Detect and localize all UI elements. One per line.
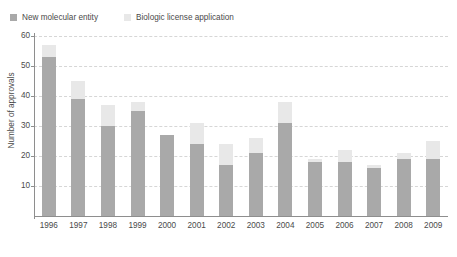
x-axis-ticks: 1996199719981999200020012002200320042005… xyxy=(34,221,448,235)
x-axis-tick-label: 2001 xyxy=(181,221,213,231)
bar-stack xyxy=(308,159,322,216)
bar-segment xyxy=(190,144,204,216)
bar-segment xyxy=(308,162,322,216)
bar-segment xyxy=(71,81,85,99)
bar-segment xyxy=(190,123,204,144)
bar-stack xyxy=(160,135,174,216)
bar-segment xyxy=(160,135,174,216)
x-axis-tick-label: 2003 xyxy=(240,221,272,231)
bar-stack xyxy=(249,138,263,216)
x-axis-tick-label: 1998 xyxy=(92,221,124,231)
bar-stack xyxy=(42,45,56,216)
bar-segment xyxy=(426,159,440,216)
bar-segment xyxy=(131,102,145,111)
x-axis-tick-label: 2002 xyxy=(210,221,242,231)
bar-stack xyxy=(278,102,292,216)
bar-stack xyxy=(219,144,233,216)
bar-segment xyxy=(278,123,292,216)
bar-stack xyxy=(190,123,204,216)
x-axis-tick-label: 2006 xyxy=(329,221,361,231)
bar-segment xyxy=(42,45,56,57)
chart-figure: New molecular entity Biologic license ap… xyxy=(0,0,457,257)
y-axis-title: Number of approvals xyxy=(7,46,16,176)
bar-segment xyxy=(219,144,233,165)
x-axis-tick-label: 2004 xyxy=(269,221,301,231)
x-axis-tick-label: 2000 xyxy=(151,221,183,231)
bar-segment xyxy=(278,102,292,123)
bar-stack xyxy=(397,153,411,216)
bar-segment xyxy=(219,165,233,216)
bar-stack xyxy=(71,81,85,216)
x-axis-tick-label: 1997 xyxy=(62,221,94,231)
bar-segment xyxy=(101,105,115,126)
bar-segment xyxy=(367,168,381,216)
bar-series-group xyxy=(34,36,448,216)
bar-stack xyxy=(101,105,115,216)
x-axis-tick-label: 2008 xyxy=(388,221,420,231)
x-axis-tick-label: 2007 xyxy=(358,221,390,231)
bar-segment xyxy=(101,126,115,216)
bar-stack xyxy=(131,102,145,216)
bar-segment xyxy=(249,138,263,153)
x-axis-tick-label: 2009 xyxy=(417,221,449,231)
bar-segment xyxy=(397,159,411,216)
bar-segment xyxy=(338,162,352,216)
bar-segment xyxy=(249,153,263,216)
bar-stack xyxy=(338,150,352,216)
x-axis-line xyxy=(34,216,448,217)
bar-segment xyxy=(131,111,145,216)
bar-stack xyxy=(426,141,440,216)
x-axis-tick-label: 1996 xyxy=(33,221,65,231)
bar-segment xyxy=(426,141,440,159)
x-axis-tick-label: 2005 xyxy=(299,221,331,231)
bar-segment xyxy=(71,99,85,216)
bar-stack xyxy=(367,165,381,216)
bar-segment xyxy=(42,57,56,216)
x-axis-tick-label: 1999 xyxy=(122,221,154,231)
bar-segment xyxy=(338,150,352,162)
